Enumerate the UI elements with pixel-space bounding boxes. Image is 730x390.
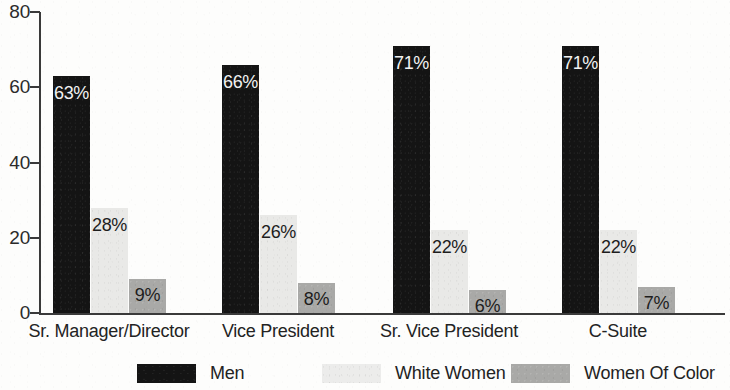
bar-value-label: 22% [600, 238, 637, 256]
bar-women-of-color: 6% [469, 290, 506, 313]
bar-women-of-color: 7% [638, 287, 675, 313]
legend-item-women-of-color[interactable]: Women Of Color [511, 362, 715, 384]
men-swatch [137, 364, 196, 383]
bar-value-label: 22% [431, 238, 468, 256]
bar-white-women: 26% [260, 215, 297, 313]
category-label: C-Suite [508, 320, 728, 342]
bar-value-label: 71% [393, 54, 430, 72]
legend-label: Women Of Color [584, 364, 715, 382]
bar-value-label: 7% [638, 294, 675, 312]
legend-item-white-women[interactable]: White Women [322, 362, 506, 384]
bar-value-label: 8% [298, 290, 335, 308]
bar-men: 66% [222, 65, 259, 313]
y-axis-tick-mark [30, 86, 40, 88]
bar-value-label: 9% [129, 286, 166, 304]
white-women-swatch [322, 364, 381, 383]
bar-chart: 020406080 63%28%9%66%26%8%71%22%6%71%22%… [0, 0, 730, 390]
bar-value-label: 26% [260, 223, 297, 241]
y-axis-tick-mark [30, 162, 40, 164]
y-axis-tick-label: 80 [0, 2, 30, 21]
bar-women-of-color: 9% [129, 279, 166, 313]
bar-value-label: 6% [469, 297, 506, 315]
bar-value-label: 71% [562, 54, 599, 72]
bar-group: 66%26%8% [222, 12, 335, 313]
x-axis-baseline [39, 313, 725, 315]
bar-value-label: 66% [222, 73, 259, 91]
bar-women-of-color: 8% [298, 283, 335, 313]
y-axis-tick-mark [30, 237, 40, 239]
y-axis-tick-mark [30, 312, 40, 314]
y-axis-tick-label: 60 [0, 77, 30, 96]
bar-value-label: 28% [91, 216, 128, 234]
y-axis-tick-label: 40 [0, 153, 30, 172]
women-of-color-swatch [511, 364, 570, 383]
bar-men: 71% [562, 46, 599, 313]
chart-legend: MenWhite WomenWomen Of Color [0, 362, 730, 386]
bar-group: 71%22%6% [393, 12, 506, 313]
bar-men: 71% [393, 46, 430, 313]
bar-group: 71%22%7% [562, 12, 675, 313]
y-axis-tick-label: 20 [0, 228, 30, 247]
legend-label: White Women [395, 364, 506, 382]
legend-item-men[interactable]: Men [137, 362, 244, 384]
legend-label: Men [210, 364, 244, 382]
bar-men: 63% [53, 76, 90, 313]
bar-white-women: 22% [600, 230, 637, 313]
y-axis-tick-mark [30, 11, 40, 13]
bar-value-label: 63% [53, 84, 90, 102]
bar-group: 63%28%9% [53, 12, 166, 313]
bar-white-women: 22% [431, 230, 468, 313]
bar-white-women: 28% [91, 208, 128, 313]
